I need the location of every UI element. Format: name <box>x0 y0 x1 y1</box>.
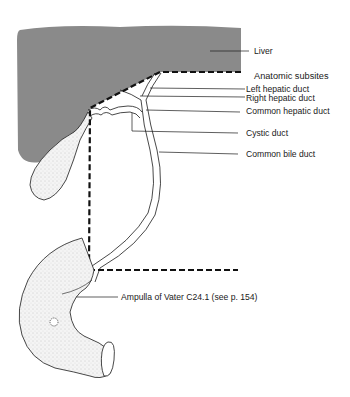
label-anatomic-subsites: Anatomic subsites <box>254 72 329 81</box>
label-common-hepatic-duct: Common hepatic duct <box>246 107 330 116</box>
label-cystic-duct: Cystic duct <box>246 129 288 138</box>
label-right-hepatic-duct: Right hepatic duct <box>246 94 315 103</box>
label-ampulla-of-vater: Ampulla of Vater C24.1 (see p. 154) <box>121 293 257 302</box>
cystic-duct <box>88 106 142 112</box>
ampulla-papilla <box>50 318 58 326</box>
biliary-anatomy-diagram <box>0 0 350 397</box>
duodenum-shape <box>19 238 112 378</box>
label-common-bile-duct: Common bile duct <box>246 150 315 159</box>
subsite-boundary-upper <box>89 72 241 270</box>
liver-shape <box>17 26 241 163</box>
label-liver: Liver <box>254 47 273 56</box>
common-bile-duct <box>95 100 161 282</box>
